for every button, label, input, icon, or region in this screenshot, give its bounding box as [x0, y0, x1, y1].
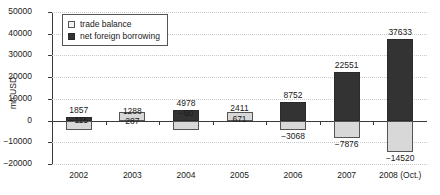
- y-axis-tick: [48, 34, 52, 35]
- legend-item-net-foreign-borrowing: net foreign borrowing: [68, 30, 160, 42]
- gridline: [52, 99, 427, 100]
- x-axis-tick-label: 2008 (Oct.): [370, 170, 430, 180]
- y-axis-tick: [48, 99, 52, 100]
- bar-net-foreign-borrowing: [387, 39, 413, 121]
- x-axis-tick: [159, 121, 160, 125]
- x-axis-tick-label: 2007: [317, 170, 377, 180]
- value-label-net-foreign-borrowing: 37633: [365, 27, 435, 37]
- value-label-net-foreign-borrowing: 22551: [312, 60, 382, 70]
- legend-swatch-icon-net-foreign-borrowing: [68, 33, 75, 40]
- value-label-net-foreign-borrowing: 8752: [258, 90, 328, 100]
- y-axis-tick: [48, 142, 52, 143]
- y-axis-tick: [48, 55, 52, 56]
- y-axis-tick-label: 30000: [0, 49, 32, 59]
- chart-legend: trade balance net foreign borrowing: [62, 14, 168, 46]
- value-label-net-foreign-borrowing: 2411: [205, 103, 275, 113]
- bar-trade-balance: [280, 121, 306, 130]
- gridline: [52, 12, 427, 13]
- value-label-trade-balance: 671: [205, 114, 275, 124]
- value-label-trade-balance: −14520: [365, 153, 435, 163]
- x-axis-tick: [320, 121, 321, 125]
- gridline: [52, 77, 427, 78]
- y-axis-tick: [48, 164, 52, 165]
- legend-label-trade-balance: trade balance: [80, 19, 132, 29]
- y-axis-tick-label: 0: [0, 115, 32, 125]
- bar-trade-balance: [387, 121, 413, 153]
- gridline: [52, 164, 427, 165]
- y-axis-tick-label: −10000: [0, 136, 32, 146]
- x-axis-tick-label: 2002: [49, 170, 109, 180]
- y-axis-tick: [48, 77, 52, 78]
- x-axis-tick-label: 2004: [156, 170, 216, 180]
- y-axis-tick-label: 50000: [0, 6, 32, 16]
- chart-container: mn USD 50000400003000020000100000−10000−…: [0, 0, 440, 195]
- x-axis-tick: [266, 121, 267, 125]
- bar-net-foreign-borrowing: [280, 102, 306, 121]
- bar-net-foreign-borrowing: [334, 72, 360, 121]
- legend-item-trade-balance: trade balance: [68, 18, 160, 30]
- y-axis-line: [52, 12, 53, 164]
- value-label-trade-balance: −7876: [312, 139, 382, 149]
- y-axis-tick-label: 20000: [0, 71, 32, 81]
- bar-trade-balance: [173, 121, 199, 130]
- bar-trade-balance: [334, 121, 360, 138]
- x-axis-tick-label: 2005: [210, 170, 270, 180]
- x-axis-tick-label: 2006: [263, 170, 323, 180]
- legend-label-net-foreign-borrowing: net foreign borrowing: [80, 31, 160, 41]
- y-axis-tick-label: −20000: [0, 158, 32, 168]
- x-axis-tick-label: 2003: [102, 170, 162, 180]
- y-axis-tick-label: 10000: [0, 93, 32, 103]
- legend-swatch-icon-trade-balance: [68, 21, 75, 28]
- y-axis-tick: [48, 12, 52, 13]
- gridline: [52, 55, 427, 56]
- x-axis-tick: [373, 121, 374, 125]
- y-axis-tick-label: 40000: [0, 28, 32, 38]
